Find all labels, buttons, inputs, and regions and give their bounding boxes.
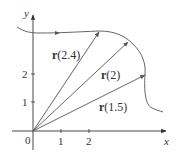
x-tick-label-1: 1 — [58, 135, 64, 147]
vector-function-diagram: 0 1 2 1 2 x y r(2.4) r(2) r(1.5) — [0, 0, 177, 156]
label-r-2: r(2) — [101, 68, 120, 82]
vector-r-2 — [33, 42, 128, 131]
x-tick-label-2: 2 — [86, 135, 92, 147]
y-tick-label-2: 2 — [22, 68, 28, 80]
curve-direction-arrow — [55, 31, 60, 35]
y-axis-label: y — [23, 7, 29, 19]
label-r-2-4: r(2.4) — [52, 48, 80, 62]
y-tick-label-1: 1 — [22, 96, 28, 108]
origin-label: 0 — [25, 134, 31, 146]
vector-r-1-5 — [33, 75, 145, 131]
space-curve — [17, 27, 163, 112]
label-r-1-5: r(1.5) — [99, 100, 127, 114]
x-axis-label: x — [163, 135, 169, 147]
vector-r-2-4 — [33, 32, 99, 131]
